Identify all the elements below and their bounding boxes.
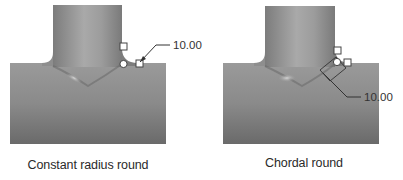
chordal-tee bbox=[223, 6, 379, 144]
tee-stem bbox=[53, 5, 122, 67]
caption-constant-radius: Constant radius round bbox=[28, 158, 149, 172]
drag-handle-square[interactable] bbox=[136, 60, 143, 67]
caption-chordal: Chordal round bbox=[265, 156, 343, 170]
left-fillet bbox=[254, 52, 265, 66]
dimension-value-right[interactable]: 10.00 bbox=[364, 91, 393, 103]
drag-handle-square[interactable] bbox=[120, 43, 127, 50]
drag-handle-circle[interactable] bbox=[120, 60, 127, 67]
drag-handle-square[interactable] bbox=[344, 59, 351, 66]
tee-body bbox=[223, 63, 379, 144]
figure-canvas: 10.00 10.00 bbox=[0, 0, 403, 180]
left-fillet bbox=[42, 52, 53, 66]
tee-body bbox=[10, 63, 166, 144]
tee-stem bbox=[265, 6, 335, 67]
drag-handle-square[interactable] bbox=[334, 47, 341, 54]
constant-radius-tee bbox=[10, 5, 170, 144]
drag-handle-circle[interactable] bbox=[333, 58, 340, 65]
dimension-value-left[interactable]: 10.00 bbox=[173, 39, 202, 51]
highlight bbox=[278, 74, 296, 82]
